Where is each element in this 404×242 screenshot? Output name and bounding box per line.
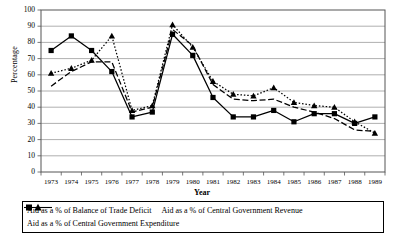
data-point-square (150, 109, 155, 114)
data-point-square (129, 114, 134, 119)
data-point-triangle (372, 130, 378, 136)
data-point-triangle (230, 91, 236, 97)
data-point-square (109, 69, 114, 74)
legend-key-dashed (23, 202, 53, 213)
data-point-square (251, 114, 256, 119)
legend-label: Aid as a % of Central Government Revenue (161, 206, 302, 215)
data-point-square (231, 114, 236, 119)
data-point-square (49, 48, 54, 53)
legend-item-central-government-revenue: Aid as a % of Central Government Revenue (161, 206, 302, 215)
data-point-square (190, 53, 195, 58)
data-point-square (69, 33, 74, 38)
legend-item-central-government-expenditure: Aid as a % of Central Government Expendi… (27, 219, 179, 228)
data-point-square (89, 48, 94, 53)
data-point-square (271, 108, 276, 113)
data-point-triangle (271, 85, 277, 91)
data-point-triangle (109, 33, 115, 39)
data-point-triangle (291, 99, 297, 105)
chart-legend: Aid as a % of Balance of Trade Deficit A… (22, 201, 384, 233)
chart-figure: Percentage Year 1009080706050403020100 1… (0, 0, 404, 242)
data-point-triangle (48, 70, 54, 76)
data-point-square (210, 95, 215, 100)
legend-label: Aid as a % of Central Government Expendi… (27, 219, 179, 228)
data-point-square (291, 119, 296, 124)
data-point-triangle (169, 21, 175, 27)
legend-row-2: Aid as a % of Central Government Expendi… (27, 217, 379, 230)
legend-row-1: Aid as a % of Balance of Trade Deficit A… (27, 204, 379, 217)
data-point-square (332, 111, 337, 116)
data-point-square (372, 114, 377, 119)
